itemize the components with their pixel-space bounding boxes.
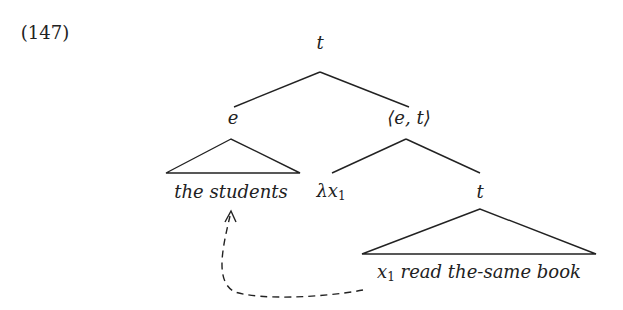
edge-root-left: [234, 72, 320, 107]
node-e: e: [228, 107, 239, 128]
edge-et-t: [406, 139, 480, 173]
edge-root-right: [320, 72, 409, 107]
node-et: ⟨e, t⟩: [387, 107, 430, 128]
lambda-binder: λx1: [316, 180, 345, 203]
root-node: t: [316, 32, 323, 53]
triangle-vp: [362, 209, 596, 254]
example-number: (147): [21, 22, 69, 43]
triangle-the-students: [166, 139, 300, 173]
edge-et-lambda: [332, 139, 406, 173]
node-t-inner: t: [476, 181, 483, 202]
movement-arrow: [222, 216, 363, 297]
leaf-the-students: the students: [174, 181, 288, 202]
leaf-vp: x1 read the-same book: [377, 261, 581, 284]
